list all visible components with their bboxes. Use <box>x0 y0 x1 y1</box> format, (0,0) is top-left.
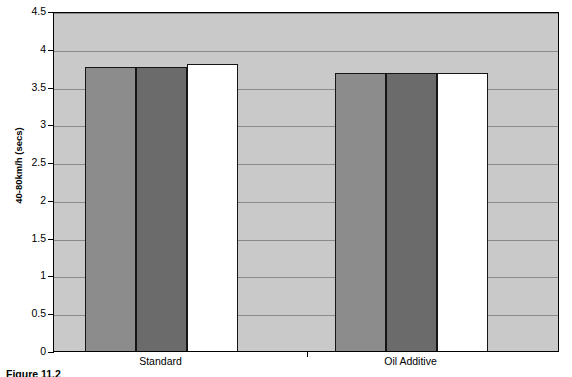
chart-figure: 00.511.522.533.544.5 40-80km/h (secs) St… <box>0 0 572 377</box>
y-axis-title: 40-80km/h (secs) <box>13 101 24 231</box>
x-axis-group-label: Standard <box>101 355 221 367</box>
y-tick-label: 3.5 <box>6 82 46 93</box>
y-tick-label: 4.5 <box>6 6 46 17</box>
y-axis: 00.511.522.533.544.5 <box>0 0 572 377</box>
y-tick-label: 1.5 <box>6 233 46 244</box>
x-tick-mark <box>307 352 308 357</box>
figure-caption: Figure 11.2 <box>6 368 61 377</box>
y-axis-line <box>53 12 54 353</box>
y-tick-label: 4 <box>6 44 46 55</box>
y-tick-label: 1 <box>6 270 46 281</box>
x-axis-group-label: Oil Additive <box>351 355 471 367</box>
y-tick-label: 0 <box>6 346 46 357</box>
y-tick-label: 0.5 <box>6 308 46 319</box>
